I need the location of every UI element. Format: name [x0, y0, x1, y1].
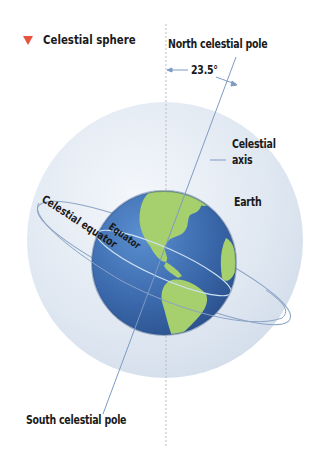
earth-label: Earth — [234, 195, 261, 209]
north-celestial-pole-label: North celestial pole — [168, 37, 267, 51]
title-text: Celestial sphere — [43, 33, 136, 47]
legend-title: Celestial sphere — [23, 33, 152, 47]
celestial-sphere-diagram: Celestial equator Equator — [0, 0, 314, 464]
celestial-axis-label-line2: axis — [232, 153, 252, 167]
south-celestial-pole-label: South celestial pole — [26, 413, 126, 427]
earth-globe — [92, 188, 237, 336]
angle-label: 23.5° — [191, 63, 218, 77]
celestial-axis-label-line1: Celestial — [232, 137, 276, 151]
red-triangle-down-icon — [23, 36, 33, 45]
